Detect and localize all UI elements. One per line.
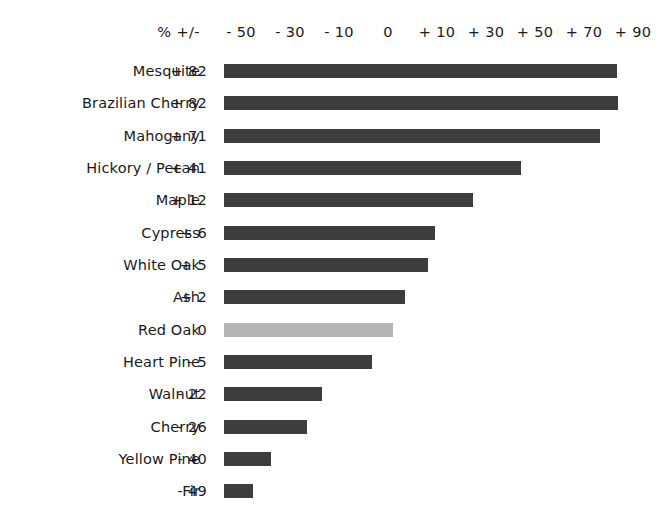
value-label: + 71: [171, 126, 207, 146]
value-label: + 12: [171, 190, 207, 210]
value-column-header: % +/-: [157, 24, 200, 40]
x-axis-tick-label: + 90: [615, 24, 651, 40]
value-label: + 82: [171, 61, 207, 81]
chart-row: Walnut- 22: [0, 384, 671, 410]
x-axis-tick-label: + 10: [419, 24, 455, 40]
value-label: + 82: [171, 93, 207, 113]
bar: [224, 129, 600, 143]
chart-axis-header: % +/- - 50- 30- 100+ 10+ 30+ 50+ 70+ 90: [0, 24, 671, 48]
chart-row: Hickory / Pecan+ 41: [0, 158, 671, 184]
bar: [224, 323, 393, 337]
chart-row: Cypress+ 6: [0, 223, 671, 249]
chart-row: Red Oak0: [0, 320, 671, 346]
bar: [224, 387, 322, 401]
value-label: + 5: [180, 255, 207, 275]
x-axis-tick-label: + 30: [468, 24, 504, 40]
chart-row: Ash+ 2: [0, 287, 671, 313]
value-label: + 41: [171, 158, 207, 178]
x-axis-tick-label: - 30: [275, 24, 305, 40]
value-label: - 22: [178, 384, 208, 404]
x-axis-tick-label: 0: [383, 24, 393, 40]
bar: [224, 452, 271, 466]
bar: [224, 484, 253, 498]
value-label: + 6: [180, 223, 207, 243]
chart-row: Heart Pine- 5: [0, 352, 671, 378]
value-label: - 26: [178, 417, 208, 437]
chart-row: Fir- 49: [0, 481, 671, 507]
bar-chart: % +/- - 50- 30- 100+ 10+ 30+ 50+ 70+ 90 …: [0, 0, 671, 523]
value-label: + 2: [180, 287, 207, 307]
bar: [224, 355, 372, 369]
x-axis-tick-label: - 10: [324, 24, 354, 40]
bar: [224, 96, 618, 110]
chart-row: Brazilian Cherry+ 82: [0, 93, 671, 119]
category-label: Red Oak: [138, 320, 200, 340]
bar: [224, 290, 405, 304]
value-label: - 40: [178, 449, 208, 469]
chart-row: Mahogany+ 71: [0, 126, 671, 152]
chart-row: Mesquite+ 82: [0, 61, 671, 87]
bar: [224, 161, 521, 175]
x-axis-tick-label: + 70: [566, 24, 602, 40]
value-label: - 5: [187, 352, 207, 372]
chart-row: Cherry- 26: [0, 417, 671, 443]
chart-row: Maple+ 12: [0, 190, 671, 216]
chart-row: Yellow Pine- 40: [0, 449, 671, 475]
bar: [224, 64, 617, 78]
value-label: - 49: [178, 481, 208, 501]
value-label: 0: [197, 320, 207, 340]
x-axis-tick-label: + 50: [517, 24, 553, 40]
x-axis-tick-label: - 50: [226, 24, 256, 40]
bar: [224, 420, 307, 434]
bar: [224, 193, 473, 207]
chart-row: White Oak+ 5: [0, 255, 671, 281]
bar: [224, 226, 435, 240]
bar: [224, 258, 428, 272]
